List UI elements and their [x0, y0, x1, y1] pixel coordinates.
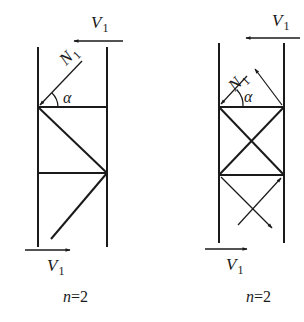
- subscript: 1: [283, 19, 289, 33]
- left-angle-label: α: [63, 90, 71, 106]
- left-caption: n=2: [63, 289, 88, 305]
- left-n1-arrow: [40, 61, 82, 105]
- symbol: V: [272, 11, 282, 30]
- right-frame: [205, 38, 300, 249]
- caption-rest: =2: [71, 288, 88, 305]
- left-diagonal-2: [51, 173, 107, 239]
- symbol: V: [47, 256, 57, 275]
- left-v1-bottom-label: V1: [47, 257, 64, 277]
- right-v1-bottom-label: V1: [226, 256, 243, 276]
- caption-rest: =2: [254, 288, 271, 305]
- right-lower-arrow-up: [238, 178, 281, 225]
- left-v1-top-label: V1: [91, 14, 108, 34]
- symbol: V: [91, 13, 101, 32]
- caption-var: n: [246, 288, 254, 305]
- right-angle-label: α: [244, 89, 252, 105]
- caption-var: n: [63, 288, 71, 305]
- right-lower-arrow-down: [221, 177, 272, 228]
- right-v1-top-label: V1: [272, 12, 289, 32]
- symbol: V: [226, 255, 236, 274]
- subscript: 1: [237, 263, 243, 277]
- diagram-graphics: [0, 0, 304, 322]
- subscript: 1: [58, 264, 64, 278]
- right-tension-arrow: [255, 69, 282, 105]
- lattice-column-diagram: V1 N1 α V1 n=2 V1 N1 α V1 n=2: [0, 0, 304, 322]
- subscript: 1: [102, 21, 108, 35]
- right-caption: n=2: [246, 289, 271, 305]
- left-diagonal-1: [38, 107, 107, 173]
- left-angle-arc: [52, 93, 58, 107]
- left-frame: [25, 41, 123, 250]
